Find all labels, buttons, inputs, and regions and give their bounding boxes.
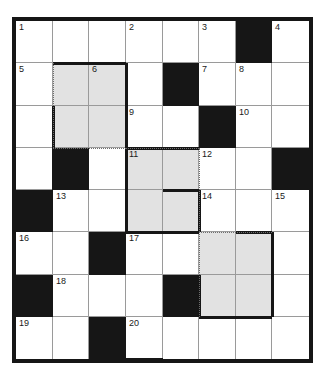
grid-cell-r1c4[interactable]: 2 — [126, 21, 163, 63]
grid-cell-r7c3[interactable] — [89, 275, 126, 317]
grid-cell-r2c6[interactable]: 7 — [199, 63, 236, 106]
grid-cell-r4c6[interactable]: 12 — [199, 148, 236, 190]
cell-number-7: 7 — [202, 64, 207, 75]
grid-cell-r5c5[interactable] — [163, 190, 199, 232]
grid-cell-r6c2[interactable] — [53, 232, 89, 275]
grid-cell-r1c1[interactable]: 1 — [16, 21, 53, 63]
grid-cell-r2c5 — [163, 63, 199, 106]
grid-cell-r1c2[interactable] — [53, 21, 89, 63]
crossword-grid[interactable]: 1234567891011121314151617181920 — [16, 21, 309, 359]
crossword-puzzle: 1234567891011121314151617181920 — [0, 0, 331, 383]
grid-cell-r2c7[interactable]: 8 — [236, 63, 272, 106]
grid-cell-r1c5[interactable] — [163, 21, 199, 63]
grid-cell-r6c8[interactable] — [272, 232, 309, 275]
grid-cell-r6c5[interactable] — [163, 232, 199, 275]
grid-cell-r5c2[interactable]: 13 — [53, 190, 89, 232]
grid-cell-r5c1 — [16, 190, 53, 232]
cell-number-1: 1 — [19, 22, 24, 33]
cell-number-13: 13 — [56, 191, 66, 202]
dotted-region17-left — [199, 232, 200, 317]
grid-cell-r8c8[interactable] — [272, 317, 309, 359]
grid-cell-r2c8[interactable] — [272, 63, 309, 106]
grid-cell-r8c3 — [89, 317, 126, 359]
cell-number-8: 8 — [239, 64, 244, 75]
grid-cell-r8c1[interactable]: 19 — [16, 317, 53, 359]
dotted-region6-left — [53, 63, 54, 148]
dotted-region6-bottom — [53, 148, 126, 149]
heavy-rule-bottom-seg — [126, 358, 163, 361]
cell-number-6: 6 — [92, 64, 97, 75]
cell-number-16: 16 — [19, 233, 29, 244]
cell-number-10: 10 — [239, 107, 249, 118]
grid-cell-r8c5[interactable] — [163, 317, 199, 359]
grid-cell-r4c1[interactable] — [16, 148, 53, 190]
grid-cell-r4c4[interactable]: 11 — [126, 148, 163, 190]
grid-cell-r7c2[interactable]: 18 — [53, 275, 89, 317]
cell-number-12: 12 — [202, 149, 212, 160]
heavy-rule-region17-bottom — [199, 316, 272, 319]
cell-number-2: 2 — [129, 22, 134, 33]
grid-cell-r3c8[interactable] — [272, 106, 309, 148]
grid-cell-r7c1 — [16, 275, 53, 317]
heavy-rule-region17-right — [271, 232, 274, 317]
grid-cell-r2c4[interactable] — [126, 63, 163, 106]
grid-cell-r7c8[interactable] — [272, 275, 309, 317]
grid-cell-r7c5 — [163, 275, 199, 317]
grid-cell-r5c3[interactable] — [89, 190, 126, 232]
grid-cell-r3c2[interactable] — [53, 106, 89, 148]
grid-cell-r3c3[interactable] — [89, 106, 126, 148]
grid-cell-r6c7[interactable] — [236, 232, 272, 275]
crossword-grid-frame: 1234567891011121314151617181920 — [12, 17, 313, 363]
grid-cell-r3c1[interactable] — [16, 106, 53, 148]
grid-cell-r1c6[interactable]: 3 — [199, 21, 236, 63]
grid-cell-r3c4[interactable]: 9 — [126, 106, 163, 148]
grid-cell-r4c7[interactable] — [236, 148, 272, 190]
grid-cell-r4c5[interactable] — [163, 148, 199, 190]
grid-cell-r7c6[interactable] — [199, 275, 236, 317]
dotted-region11-right — [199, 148, 200, 232]
grid-cell-r5c7[interactable] — [236, 190, 272, 232]
grid-cell-r1c7 — [236, 21, 272, 63]
grid-cell-r4c3[interactable] — [89, 148, 126, 190]
grid-cell-r5c4[interactable] — [126, 190, 163, 232]
grid-cell-r2c2[interactable] — [53, 63, 89, 106]
heavy-rule-region6-right — [125, 63, 128, 148]
grid-cell-r6c4[interactable]: 17 — [126, 232, 163, 275]
grid-cell-r4c2 — [53, 148, 89, 190]
cell-number-14: 14 — [202, 191, 212, 202]
grid-cell-r6c1[interactable]: 16 — [16, 232, 53, 275]
grid-cell-r3c5[interactable] — [163, 106, 199, 148]
heavy-rule-region6-top — [53, 62, 126, 65]
heavy-rule-row4-col5-bottom — [163, 189, 199, 192]
dotted-region17-top — [199, 232, 272, 233]
heavy-rule-region11-bottom — [126, 231, 199, 234]
grid-cell-r8c6[interactable] — [199, 317, 236, 359]
dotted-region11-top — [126, 148, 199, 149]
grid-cell-r7c7[interactable] — [236, 275, 272, 317]
cell-number-19: 19 — [19, 318, 29, 329]
grid-cell-r4c8 — [272, 148, 309, 190]
grid-cell-r2c1[interactable]: 5 — [16, 63, 53, 106]
grid-cell-r5c8[interactable]: 15 — [272, 190, 309, 232]
grid-cell-r8c7[interactable] — [236, 317, 272, 359]
cell-number-20: 20 — [129, 318, 139, 329]
cell-number-3: 3 — [202, 22, 207, 33]
grid-cell-r1c3[interactable] — [89, 21, 126, 63]
cell-number-4: 4 — [275, 22, 280, 33]
grid-cell-r7c4[interactable] — [126, 275, 163, 317]
grid-cell-r6c3 — [89, 232, 126, 275]
cell-number-9: 9 — [129, 107, 134, 118]
grid-cell-r8c2[interactable] — [53, 317, 89, 359]
grid-cell-r6c6[interactable] — [199, 232, 236, 275]
grid-cell-r8c4[interactable]: 20 — [126, 317, 163, 359]
grid-cell-r2c3[interactable]: 6 — [89, 63, 126, 106]
cell-number-15: 15 — [275, 191, 285, 202]
heavy-rule-region11-left — [125, 148, 128, 232]
grid-cell-r1c8[interactable]: 4 — [272, 21, 309, 63]
grid-cell-r3c7[interactable]: 10 — [236, 106, 272, 148]
cell-number-17: 17 — [129, 233, 139, 244]
cell-number-5: 5 — [19, 64, 24, 75]
grid-cell-r3c6 — [199, 106, 236, 148]
cell-number-18: 18 — [56, 276, 66, 287]
grid-cell-r5c6[interactable]: 14 — [199, 190, 236, 232]
